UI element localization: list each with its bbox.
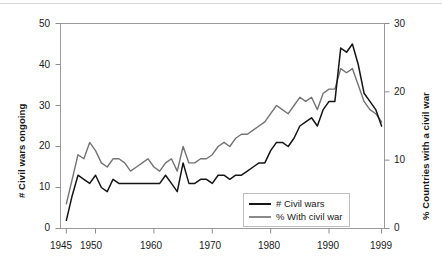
y-axis-ticks-right — [385, 24, 390, 229]
legend-swatch-icon-civil-wars — [249, 203, 271, 205]
legend-label-civil-wars: # Civil wars — [276, 198, 325, 209]
chart-figure: # Civil wars ongoing % Countries with a … — [0, 0, 442, 272]
y-axis-ticks-left — [56, 24, 61, 229]
legend-label-pct-with-civil-war: % With civil war — [276, 211, 343, 222]
chart-legend: # Civil wars % With civil war — [243, 193, 350, 227]
legend-item-civil-wars: # Civil wars — [249, 197, 343, 210]
x-axis-ticks — [66, 229, 381, 234]
series-line-pct-with-civil-war — [66, 69, 381, 204]
legend-item-pct-with-civil-war: % With civil war — [249, 210, 343, 223]
legend-swatch-icon-pct-with-civil-war — [249, 216, 271, 218]
plot-area — [0, 0, 442, 272]
